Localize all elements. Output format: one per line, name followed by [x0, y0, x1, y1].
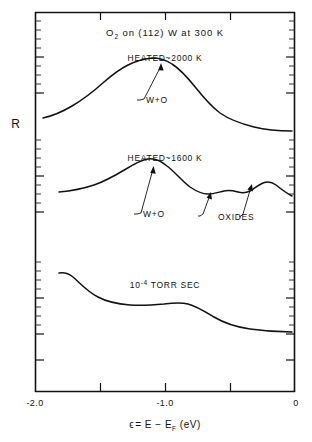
plot-title: O2 on (112) W at 300 K: [106, 27, 224, 40]
title-o-symbol: O: [106, 27, 114, 38]
curve-torr-sec-group: 10-4 TORR SEC: [59, 273, 292, 332]
figure-container: O2 on (112) W at 300 K R W+O HEATED~2000…: [0, 0, 312, 442]
curve-heated-1600k-group: W+O HEATED~1600 K OXIDES: [59, 153, 292, 222]
oxides-leader-right: [243, 187, 251, 214]
w-plus-o-leader-mid: [141, 169, 153, 213]
xtick-label-minus2: -2.0: [26, 398, 43, 408]
w-plus-o-arrowhead-top: [158, 63, 164, 71]
label-w-plus-o-top: W+O: [146, 95, 168, 105]
oxides-hook-left: [198, 214, 203, 216]
plot-frame: [35, 12, 295, 392]
x-axis-label: ϵ= E − EF (eV): [129, 419, 200, 432]
x-axis-equation: = E − E: [135, 419, 172, 430]
spectra-plot: O2 on (112) W at 300 K R W+O HEATED~2000…: [0, 0, 312, 442]
x-axis-unit: (eV): [177, 419, 201, 430]
curve-heated-2000k-group: W+O HEATED~2000 K: [43, 53, 292, 131]
x-axis-tick-labels: -2.0 -1.0 0: [26, 398, 298, 408]
torr-rest: TORR SEC: [148, 280, 200, 290]
torr-exponent: -4: [141, 279, 148, 286]
w-plus-o-hook-top: [137, 99, 144, 100]
w-plus-o-arrowhead-mid: [150, 166, 156, 174]
oxides-arrowhead-right: [247, 184, 252, 191]
title-rest: on (112) W at 300 K: [119, 27, 224, 38]
left-axis-ticks: [36, 21, 45, 360]
y-axis-label: R: [11, 117, 20, 131]
label-oxides: OXIDES: [218, 212, 254, 222]
label-w-plus-o-mid: W+O: [143, 209, 165, 219]
torr-base: 10: [130, 280, 141, 290]
x-axis-epsilon: ϵ: [129, 419, 134, 430]
curve-heated-1600k: [59, 159, 292, 196]
label-heated-2000k: HEATED~2000 K: [128, 53, 203, 63]
w-plus-o-hook-mid: [134, 213, 141, 214]
svg-text:O2 on (112) W at 300 K: O2 on (112) W at 300 K: [106, 27, 224, 40]
label-torr-sec: 10-4 TORR SEC: [130, 279, 200, 291]
right-axis-ticks: [286, 21, 295, 360]
xtick-label-minus1: -1.0: [156, 398, 173, 408]
xtick-label-zero: 0: [293, 398, 298, 408]
bottom-axis-ticks: [101, 383, 231, 392]
top-axis-ticks: [101, 13, 231, 21]
label-heated-1600k: HEATED~1600 K: [128, 153, 203, 163]
